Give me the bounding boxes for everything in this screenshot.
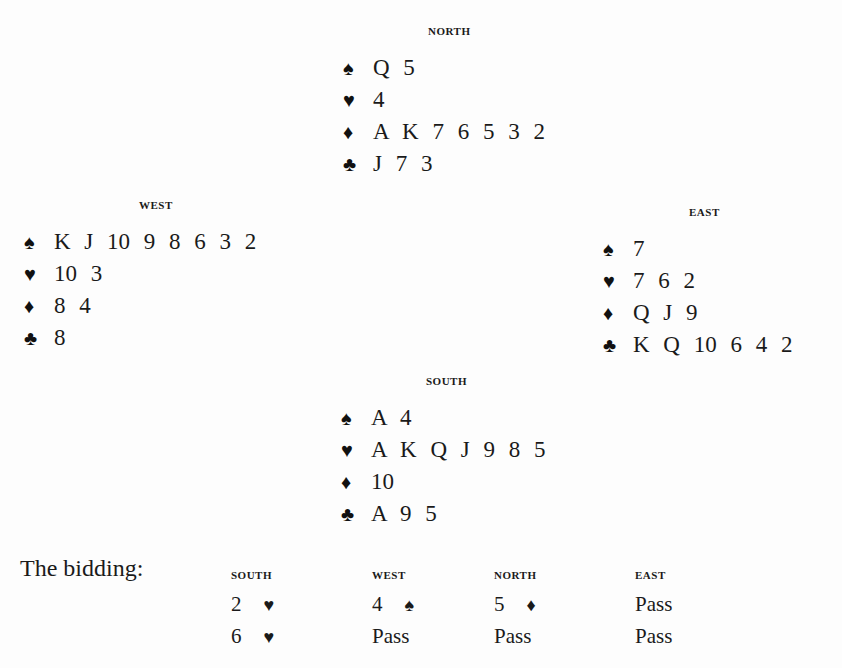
- east-clubs-cards: K Q 10 6 4 2: [633, 333, 792, 356]
- south-spades-row: ♠ A 4: [341, 406, 412, 436]
- bid-level: Pass: [635, 592, 672, 616]
- bid-column-north: NORTH 5♦ Pass: [494, 560, 536, 652]
- heart-icon: ♥: [341, 440, 371, 460]
- north-diamonds-cards: A K 7 6 5 3 2: [373, 120, 545, 143]
- bid-level: 5: [494, 592, 505, 616]
- hand-south-label: SOUTH: [426, 372, 467, 389]
- east-diamonds-row: ♦ Q J 9: [603, 301, 698, 331]
- spade-icon: ♠: [343, 58, 373, 78]
- west-clubs-row: ♣ 8: [24, 326, 66, 356]
- south-clubs-row: ♣ A 9 5: [341, 502, 437, 532]
- bid-north-1: 5♦: [494, 588, 536, 620]
- diamond-icon: ♦: [24, 296, 54, 316]
- bid-north-2: Pass: [494, 620, 536, 652]
- diamond-icon: ♦: [527, 595, 536, 615]
- bid-level: Pass: [372, 624, 409, 648]
- hand-east-label: EAST: [689, 203, 720, 220]
- bid-west-2: Pass: [372, 620, 414, 652]
- bid-header-south: SOUTH: [231, 560, 274, 588]
- club-icon: ♣: [341, 504, 371, 524]
- north-spades-cards: Q 5: [373, 56, 415, 79]
- bid-column-west: WEST 4♠ Pass: [372, 560, 414, 652]
- east-spades-row: ♠ 7: [603, 237, 645, 267]
- spade-icon: ♠: [24, 232, 54, 252]
- bid-header-east: EAST: [635, 560, 672, 588]
- east-clubs-row: ♣ K Q 10 6 4 2: [603, 333, 792, 363]
- spade-icon: ♠: [603, 239, 633, 259]
- heart-icon: ♥: [24, 264, 54, 284]
- heart-icon: ♥: [264, 595, 275, 615]
- bid-south-1: 2♥: [231, 588, 274, 620]
- spade-icon: ♠: [341, 408, 371, 428]
- hand-north-label: NORTH: [428, 22, 470, 39]
- east-hearts-cards: 7 6 2: [633, 269, 695, 292]
- heart-icon: ♥: [343, 90, 373, 110]
- south-diamonds-cards: 10: [371, 470, 394, 493]
- south-clubs-cards: A 9 5: [371, 502, 437, 525]
- south-spades-cards: A 4: [371, 406, 412, 429]
- north-clubs-cards: J 7 3: [373, 152, 432, 175]
- east-diamonds-cards: Q J 9: [633, 301, 698, 324]
- east-hearts-row: ♥ 7 6 2: [603, 269, 695, 299]
- east-spades-cards: 7: [633, 237, 645, 260]
- bid-level: 6: [231, 624, 242, 648]
- bid-level: 2: [231, 592, 242, 616]
- club-icon: ♣: [24, 328, 54, 348]
- west-clubs-cards: 8: [54, 326, 66, 349]
- bid-east-2: Pass: [635, 620, 672, 652]
- bid-level: Pass: [635, 624, 672, 648]
- west-diamonds-cards: 8 4: [54, 294, 91, 317]
- bid-level: Pass: [494, 624, 531, 648]
- diamond-icon: ♦: [603, 303, 633, 323]
- heart-icon: ♥: [264, 627, 275, 647]
- spade-icon: ♠: [405, 595, 415, 615]
- bid-south-2: 6♥: [231, 620, 274, 652]
- club-icon: ♣: [603, 335, 633, 355]
- bid-column-south: SOUTH 2♥ 6♥: [231, 560, 274, 652]
- north-diamonds-row: ♦ A K 7 6 5 3 2: [343, 120, 545, 150]
- south-hearts-cards: A K Q J 9 8 5: [371, 438, 546, 461]
- west-diamonds-row: ♦ 8 4: [24, 294, 91, 324]
- north-hearts-cards: 4: [373, 88, 385, 111]
- north-clubs-row: ♣ J 7 3: [343, 152, 432, 182]
- bid-column-east: EAST Pass Pass: [635, 560, 672, 652]
- hand-west-label: WEST: [139, 196, 173, 213]
- bid-east-1: Pass: [635, 588, 672, 620]
- north-spades-row: ♠ Q 5: [343, 56, 415, 86]
- heart-icon: ♥: [603, 271, 633, 291]
- diamond-icon: ♦: [341, 472, 371, 492]
- bid-header-north: NORTH: [494, 560, 536, 588]
- club-icon: ♣: [343, 154, 373, 174]
- west-spades-cards: K J 10 9 8 6 3 2: [54, 230, 256, 253]
- diamond-icon: ♦: [343, 122, 373, 142]
- bidding-title: The bidding:: [20, 555, 143, 582]
- bid-west-1: 4♠: [372, 588, 414, 620]
- north-hearts-row: ♥ 4: [343, 88, 385, 118]
- west-hearts-row: ♥ 10 3: [24, 262, 102, 292]
- south-diamonds-row: ♦ 10: [341, 470, 394, 500]
- west-spades-row: ♠ K J 10 9 8 6 3 2: [24, 230, 256, 260]
- bid-level: 4: [372, 592, 383, 616]
- west-hearts-cards: 10 3: [54, 262, 102, 285]
- south-hearts-row: ♥ A K Q J 9 8 5: [341, 438, 546, 468]
- bid-header-west: WEST: [372, 560, 414, 588]
